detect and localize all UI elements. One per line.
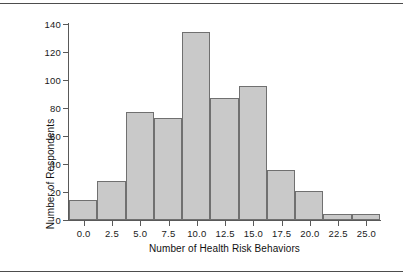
y-axis-tick — [63, 220, 68, 221]
x-axis-tick-label: 22.5 — [329, 228, 348, 239]
y-axis-tick — [63, 52, 68, 53]
plot-area — [69, 24, 380, 220]
x-axis-tick-label: 12.5 — [215, 228, 234, 239]
histogram-bar — [126, 112, 154, 220]
x-axis-tick — [140, 221, 141, 226]
histogram-bar — [182, 32, 210, 220]
x-axis-tick — [225, 221, 226, 226]
x-axis-tick — [310, 221, 311, 226]
x-axis-tick — [112, 221, 113, 226]
x-axis-tick-label: 7.5 — [162, 228, 176, 239]
histogram-bar — [352, 214, 380, 220]
x-axis-tick-label: 17.5 — [272, 228, 291, 239]
y-axis-tick — [63, 80, 68, 81]
histogram-bar — [239, 86, 267, 220]
x-axis-tick-label: 0.0 — [77, 228, 91, 239]
y-axis-tick — [63, 108, 68, 109]
x-axis-tick-label: 25.0 — [357, 228, 376, 239]
histogram-bar — [295, 191, 323, 220]
x-axis-tick — [169, 221, 170, 226]
y-axis-tick-label: 0 — [56, 215, 61, 226]
histogram-bar — [267, 170, 295, 220]
histogram-bar — [210, 98, 238, 220]
x-axis-tick — [338, 221, 339, 226]
x-axis-tick — [366, 221, 367, 226]
x-axis-title: Number of Health Risk Behaviors — [68, 243, 381, 254]
y-axis-title: Number of Respondents — [45, 94, 56, 182]
y-axis-tick — [63, 192, 68, 193]
x-axis-tick — [197, 221, 198, 226]
y-axis-tick-label: 120 — [45, 47, 61, 58]
y-axis-tick — [63, 164, 68, 165]
histogram-bar — [154, 118, 182, 220]
y-axis-tick-label: 140 — [45, 19, 61, 30]
y-axis-tick-label: 100 — [45, 75, 61, 86]
y-axis-tick — [63, 24, 68, 25]
x-axis-tick-label: 10.0 — [187, 228, 206, 239]
x-axis-tick-label: 2.5 — [105, 228, 119, 239]
x-axis-tick-label: 15.0 — [244, 228, 263, 239]
y-axis-title-text: Number of Respondents — [45, 94, 56, 254]
x-axis-tick — [253, 221, 254, 226]
y-axis-tick — [63, 136, 68, 137]
histogram-figure: 020406080100120140 0.02.55.07.510.012.51… — [0, 0, 403, 276]
histogram-bar — [323, 214, 351, 220]
x-axis-tick-label: 20.0 — [300, 228, 319, 239]
histogram-bar — [97, 181, 125, 220]
histogram-bar — [69, 200, 97, 220]
x-axis-tick-label: 5.0 — [133, 228, 147, 239]
x-axis-tick — [84, 221, 85, 226]
x-axis-tick — [282, 221, 283, 226]
